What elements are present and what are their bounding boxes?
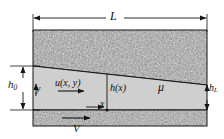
- label-inlet-gap: h0: [8, 79, 17, 91]
- label-inlet-gap-subscript: 0: [14, 83, 18, 92]
- label-outlet-gap-subscript: L: [214, 86, 218, 93]
- label-axis-y: y: [36, 84, 40, 94]
- lubrication-diagram: L h0 y u(x, y) h(x) μ hL x V: [0, 0, 224, 139]
- label-wall-velocity: V: [73, 123, 80, 134]
- label-outlet-gap: hL: [209, 83, 218, 94]
- lower-moving-surface: [33, 110, 207, 126]
- label-gap-function: h(x): [110, 83, 126, 93]
- label-viscosity: μ: [158, 81, 164, 93]
- length-dimension: [33, 14, 207, 32]
- label-length: L: [110, 10, 117, 22]
- label-velocity-profile: u(x, y): [55, 78, 81, 88]
- label-axis-x: x: [100, 99, 104, 109]
